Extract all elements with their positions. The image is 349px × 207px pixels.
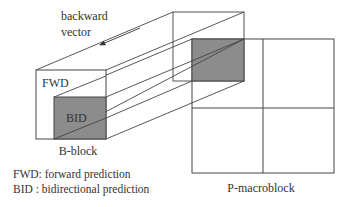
b-block-prediction-diagram: backward vector FWD BID B-block P-macrob… xyxy=(0,0,349,207)
legend-line-1: FWD: forward prediction xyxy=(13,168,131,181)
fwd-label: FWD xyxy=(42,76,69,90)
reference-bid-region xyxy=(192,39,244,81)
backward-vector-arrow xyxy=(100,28,140,45)
b-block-label: B-block xyxy=(59,144,98,158)
backward-vector-label-2: vector xyxy=(61,25,91,39)
bid-label: BID xyxy=(66,111,87,125)
backward-vector-label-1: backward xyxy=(61,9,108,23)
p-macroblock-label: P-macroblock xyxy=(227,181,294,195)
legend-line-2: BID : bidirectional prediction xyxy=(13,183,150,196)
